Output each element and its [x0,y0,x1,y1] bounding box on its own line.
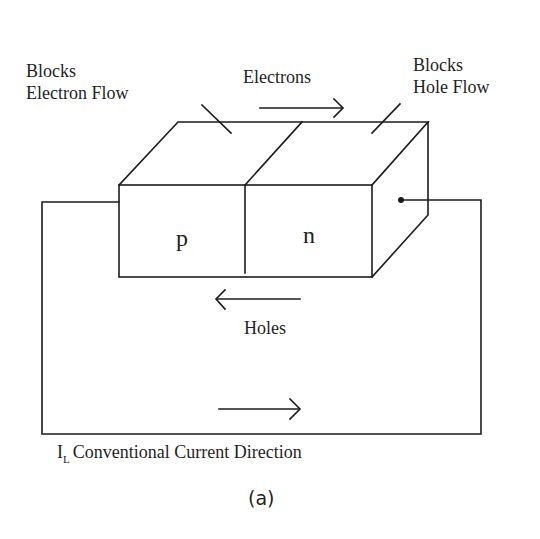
blocks-hole-flow-line1: Blocks [413,54,490,76]
blocks-electron-flow-line2: Electron Flow [26,82,128,104]
electron-block-tick [202,105,231,133]
current-direction-label: ILConventional Current Direction [57,441,302,465]
current-subscript: L [63,453,70,465]
current-arrow-icon [219,399,300,419]
junction-divider-top [245,122,302,185]
blocks-electron-flow-label: Blocks Electron Flow [26,60,128,104]
blocks-electron-flow-line1: Blocks [26,60,128,82]
blocks-hole-flow-label: Blocks Hole Flow [413,54,490,98]
figure-caption: (a) [248,487,274,509]
n-region-label: n [303,222,315,249]
blocks-hole-flow-line2: Hole Flow [413,76,490,98]
hole-block-tick [372,104,400,133]
contact-dot [398,197,404,203]
electrons-label: Electrons [243,66,311,88]
p-region-label: p [176,225,188,252]
holes-arrow-icon [216,290,300,309]
electrons-arrow-icon [260,99,343,117]
current-text: Conventional Current Direction [73,442,302,462]
holes-label: Holes [244,317,286,339]
